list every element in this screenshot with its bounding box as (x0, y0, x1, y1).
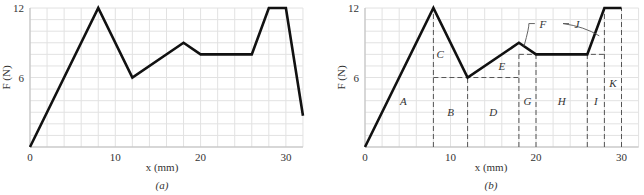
x-tick-label: 20 (195, 151, 207, 163)
x-tick-label: 30 (280, 151, 292, 163)
x-axis-label: x (mm) (146, 161, 179, 174)
y-axis-label: F (N) (0, 65, 13, 89)
x-tick-label: 30 (616, 151, 628, 163)
x-tick-label: 10 (445, 151, 457, 163)
x-tick-label: 10 (110, 151, 122, 163)
y-tick-label: 6 (19, 72, 25, 84)
y-tick-label: 12 (348, 2, 359, 14)
region-label: B (447, 106, 454, 118)
panel-subtitle: (a) (156, 179, 169, 192)
callout-label: F (538, 18, 546, 30)
y-tick-label: 12 (13, 2, 24, 14)
region-label: H (557, 95, 567, 107)
region-label: C (437, 48, 445, 60)
region-label: A (399, 95, 407, 107)
x-tick-label: 20 (531, 151, 543, 163)
panel-a-chart: 0102030612x (mm)F (N)(a) (0, 2, 303, 192)
panel-b-chart: 0102030612x (mm)F (N)(b)ABCDEGHIKFJ (335, 2, 639, 192)
y-tick-label: 6 (354, 72, 360, 84)
x-axis-label: x (mm) (475, 161, 508, 174)
y-axis-label: F (N) (335, 65, 348, 89)
x-tick-label: 0 (27, 151, 33, 163)
panel-subtitle: (b) (485, 179, 498, 192)
figure: 0102030612x (mm)F (N)(a) 0102030612x (mm… (0, 0, 644, 195)
region-label: E (497, 60, 505, 72)
region-label: G (523, 95, 531, 107)
region-label: K (608, 77, 617, 89)
x-tick-label: 0 (362, 151, 368, 163)
region-label: D (488, 106, 497, 118)
